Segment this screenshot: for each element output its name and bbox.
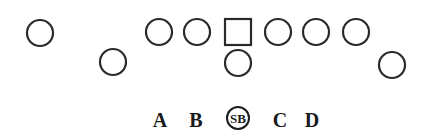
gap-label-a: A bbox=[153, 109, 168, 131]
gap-label-d: D bbox=[305, 109, 319, 131]
sb-marker: SB bbox=[227, 107, 249, 129]
center-square bbox=[225, 19, 251, 45]
gap-label-b: B bbox=[189, 109, 202, 131]
football-formation-diagram: A B SB C D bbox=[0, 0, 432, 131]
player-circle-p2 bbox=[100, 49, 126, 75]
gap-label-c: C bbox=[273, 109, 287, 131]
player-circle-p5 bbox=[225, 50, 251, 76]
player-circle-p6 bbox=[265, 19, 291, 45]
player-circle-p1 bbox=[27, 20, 53, 46]
player-circle-p4 bbox=[184, 19, 210, 45]
player-circle-p9 bbox=[379, 52, 405, 78]
player-circle-p8 bbox=[343, 19, 369, 45]
player-circle-p7 bbox=[303, 19, 329, 45]
player-circle-p3 bbox=[146, 19, 172, 45]
sb-label: SB bbox=[230, 111, 246, 126]
